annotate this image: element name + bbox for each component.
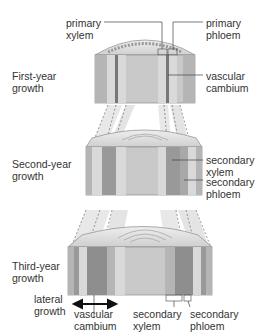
primary-phloem-label: primary phloem bbox=[206, 17, 241, 41]
lateral-growth-label: lateral growth bbox=[34, 293, 66, 317]
label-line: lateral bbox=[34, 293, 66, 305]
first-year-stem-segment bbox=[95, 40, 195, 103]
third-year-stem-segment bbox=[68, 227, 212, 302]
label-line: growth bbox=[12, 82, 56, 94]
label-line: phloem bbox=[206, 29, 241, 41]
secondary-phloem-mid-label: secondary phloem bbox=[206, 176, 254, 200]
secondary-xylem-bottom-label: secondary xylem bbox=[133, 308, 181, 332]
primary-xylem-label: primary xylem bbox=[66, 17, 101, 41]
label-line: phloem bbox=[190, 320, 238, 332]
lateral-growth-arrow-icon bbox=[74, 300, 116, 308]
label-line: First-year bbox=[12, 70, 56, 82]
label-line: cambium bbox=[206, 82, 249, 94]
label-line: primary bbox=[206, 17, 241, 29]
label-line: growth bbox=[12, 170, 72, 182]
label-line: secondary bbox=[206, 176, 254, 188]
first-year-growth-label: First-year growth bbox=[12, 70, 56, 94]
label-line: secondary bbox=[206, 154, 254, 166]
secondary-xylem-mid-label: secondary xylem bbox=[206, 154, 254, 178]
label-line: phloem bbox=[206, 188, 254, 200]
secondary-phloem-bottom-label: secondary phloem bbox=[190, 308, 238, 332]
label-line: cambium bbox=[74, 320, 117, 332]
third-year-growth-label: Third-year growth bbox=[12, 260, 60, 284]
label-line: growth bbox=[34, 305, 66, 317]
vascular-cambium-top-label: vascular cambium bbox=[206, 70, 249, 94]
label-line: primary bbox=[66, 17, 101, 29]
label-line: vascular bbox=[74, 308, 117, 320]
label-line: growth bbox=[12, 272, 60, 284]
label-line: Third-year bbox=[12, 260, 60, 272]
label-line: secondary bbox=[190, 308, 238, 320]
label-line: xylem bbox=[133, 320, 181, 332]
label-line: secondary bbox=[133, 308, 181, 320]
second-year-growth-label: Second-year growth bbox=[12, 158, 72, 182]
vascular-cambium-bottom-label: vascular cambium bbox=[74, 308, 117, 332]
label-line: xylem bbox=[66, 29, 101, 41]
label-line: Second-year bbox=[12, 158, 72, 170]
second-year-stem-segment bbox=[86, 130, 202, 195]
label-line: vascular bbox=[206, 70, 249, 82]
